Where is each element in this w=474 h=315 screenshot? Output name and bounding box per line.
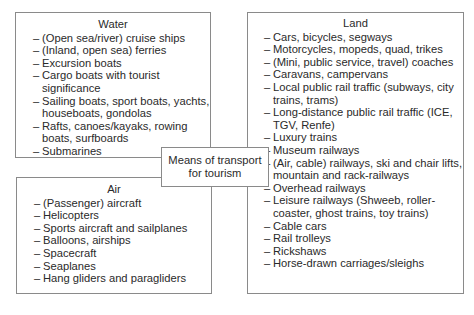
list-item: –Overhead railways — [248, 182, 463, 195]
list-item: –Seaplanes — [17, 260, 211, 273]
dash: – — [264, 106, 273, 119]
dash: – — [264, 220, 273, 233]
list-item: –Excursion boats — [16, 57, 210, 70]
item-text: (Mini, public service, travel) coaches — [273, 56, 453, 68]
list-item: –(Passenger) aircraft — [17, 197, 211, 210]
dash: – — [264, 31, 273, 44]
list-item: –Balloons, airships — [17, 234, 211, 247]
list-item: –(Open sea/river) cruise ships — [16, 32, 210, 45]
item-text: Helicopters — [43, 209, 99, 221]
dash: – — [34, 222, 43, 235]
dash: – — [264, 232, 273, 245]
item-text: Long-distance public rail traffic (ICE, … — [273, 106, 453, 131]
item-text: Seaplanes — [43, 260, 96, 272]
dash: – — [34, 272, 43, 285]
list-item: –(Inland, open sea) ferries — [16, 44, 210, 57]
item-text: Cargo boats with tourist significance — [42, 69, 160, 94]
dash: – — [264, 245, 273, 258]
item-text: Sports aircraft and sailplanes — [43, 222, 187, 234]
item-text: Horse-drawn carriages/sleighs — [273, 257, 424, 269]
list-item: –Hang gliders and paragliders — [17, 272, 211, 285]
item-text: Hang gliders and paragliders — [43, 272, 186, 284]
list-item: –Spacecraft — [17, 247, 211, 260]
dash: – — [33, 120, 42, 133]
item-text: Rickshaws — [273, 245, 326, 257]
item-text: Leisure railways (Shweeb, roller-coaster… — [273, 194, 435, 219]
dash: – — [264, 56, 273, 69]
dash: – — [34, 209, 43, 222]
central-topic-line2: for tourism — [162, 167, 268, 180]
list-item: –Long-distance public rail traffic (ICE,… — [248, 106, 463, 131]
list-item: –Horse-drawn carriages/sleighs — [248, 257, 463, 270]
dash: – — [33, 32, 42, 45]
item-text: Museum railways — [273, 144, 359, 156]
dash: – — [34, 247, 43, 260]
dash: – — [34, 197, 43, 210]
dash: – — [34, 260, 43, 273]
list-item: –Leisure railways (Shweeb, roller-coaste… — [248, 194, 463, 219]
land-title: Land — [248, 17, 463, 30]
dash: – — [264, 81, 273, 94]
item-text: Sailing boats, sport boats, yachts, hous… — [42, 95, 209, 120]
item-text: Motorcycles, mopeds, quad, trikes — [273, 43, 443, 55]
item-text: Submarines — [42, 145, 102, 157]
list-item: –Sports aircraft and sailplanes — [17, 222, 211, 235]
item-text: Excursion boats — [42, 57, 122, 69]
item-text: Local public rail traffic (subways, city… — [273, 81, 454, 106]
dash: – — [33, 69, 42, 82]
list-item: –Caravans, campervans — [248, 68, 463, 81]
dash: – — [264, 43, 273, 56]
list-item: –Cars, bicycles, segways — [248, 31, 463, 44]
air-items-list: –(Passenger) aircraft –Helicopters –Spor… — [17, 197, 211, 285]
item-text: Balloons, airships — [43, 234, 131, 246]
list-item: –Rickshaws — [248, 245, 463, 258]
item-text: (Inland, open sea) ferries — [42, 44, 166, 56]
item-text: (Open sea/river) cruise ships — [42, 32, 185, 44]
dash: – — [264, 68, 273, 81]
list-item: –Sailing boats, sport boats, yachts, hou… — [16, 95, 210, 120]
item-text: Rafts, canoes/kayaks, rowing boats, surf… — [42, 120, 188, 145]
central-topic-line1: Means of transport — [162, 154, 268, 167]
dash: – — [264, 194, 273, 207]
list-item: –Motorcycles, mopeds, quad, trikes — [248, 43, 463, 56]
dash: – — [264, 257, 273, 270]
dash: – — [33, 95, 42, 108]
list-item: –Helicopters — [17, 209, 211, 222]
land-category-box: Land –Cars, bicycles, segways –Motorcycl… — [247, 12, 464, 294]
item-text: (Air, cable) railways, ski and chair lif… — [273, 157, 462, 182]
item-text: Rail trolleys — [273, 232, 331, 244]
list-item: –(Mini, public service, travel) coaches — [248, 56, 463, 69]
list-item: –Rail trolleys — [248, 232, 463, 245]
list-item: –(Air, cable) railways, ski and chair li… — [248, 157, 463, 182]
list-item: –Local public rail traffic (subways, cit… — [248, 81, 463, 106]
air-category-box: Air –(Passenger) aircraft –Helicopters –… — [16, 177, 212, 294]
list-item: –Cargo boats with tourist significance — [16, 69, 210, 94]
central-topic-box: Means of transport for tourism — [161, 147, 269, 187]
list-item: –Rafts, canoes/kayaks, rowing boats, sur… — [16, 120, 210, 145]
dash: – — [33, 44, 42, 57]
list-item: –Museum railways — [248, 144, 463, 157]
item-text: Overhead railways — [273, 182, 366, 194]
item-text: Cable cars — [273, 220, 326, 232]
water-items-list: –(Open sea/river) cruise ships –(Inland,… — [16, 32, 210, 158]
water-category-box: Water –(Open sea/river) cruise ships –(I… — [15, 12, 211, 158]
item-text: Luxury trains — [273, 131, 337, 143]
water-title: Water — [16, 18, 210, 31]
item-text: Caravans, campervans — [273, 68, 388, 80]
land-items-list: –Cars, bicycles, segways –Motorcycles, m… — [248, 31, 463, 270]
dash: – — [33, 145, 42, 158]
list-item: –Luxury trains — [248, 131, 463, 144]
dash: – — [264, 131, 273, 144]
dash: – — [34, 234, 43, 247]
item-text: Cars, bicycles, segways — [273, 31, 392, 43]
item-text: (Passenger) aircraft — [43, 197, 141, 209]
list-item: –Cable cars — [248, 220, 463, 233]
dash: – — [33, 57, 42, 70]
item-text: Spacecraft — [43, 247, 96, 259]
